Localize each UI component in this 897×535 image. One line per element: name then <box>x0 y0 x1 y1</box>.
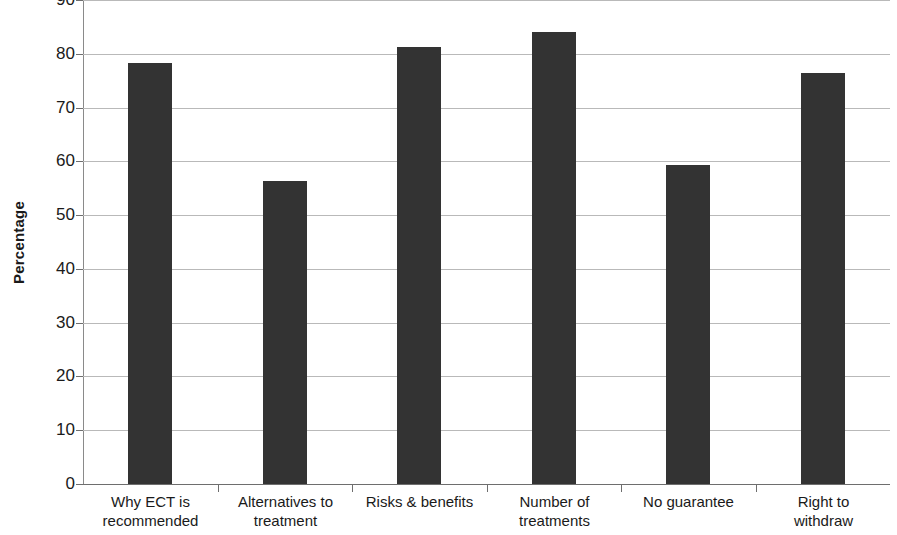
y-axis-tick-label: 70 <box>56 98 75 118</box>
x-axis-category-label: No guarantee <box>621 492 756 511</box>
x-axis-category-label-line: treatment <box>218 511 353 530</box>
x-axis-category-labels: Why ECT isrecommendedAlternatives totrea… <box>83 492 890 535</box>
bar <box>263 181 307 484</box>
y-axis-tick-label: 20 <box>56 366 75 386</box>
y-axis-tick-label: 10 <box>56 420 75 440</box>
y-axis-tick-label: 30 <box>56 313 75 333</box>
x-axis-category-label: Risks & benefits <box>352 492 487 511</box>
x-axis-tick <box>352 484 353 492</box>
y-axis-line <box>83 0 84 484</box>
bar <box>128 63 172 484</box>
y-axis-tick <box>76 430 83 431</box>
y-axis-title: Percentage <box>0 0 36 484</box>
y-axis-tick <box>76 269 83 270</box>
y-axis-tick <box>76 108 83 109</box>
x-axis-category-label: Why ECT isrecommended <box>83 492 218 530</box>
x-axis-category-label-line: Risks & benefits <box>352 492 487 511</box>
x-axis-tick <box>218 484 219 492</box>
gridline <box>83 54 890 55</box>
x-axis-category-label: Right towithdraw <box>756 492 891 530</box>
x-axis-category-label-line: Alternatives to <box>218 492 353 511</box>
x-axis-tick <box>487 484 488 492</box>
gridline <box>83 376 890 377</box>
x-axis-category-label: Number oftreatments <box>487 492 622 530</box>
y-axis-tick <box>76 54 83 55</box>
x-axis-category-label-line: withdraw <box>756 511 891 530</box>
bar <box>532 32 576 484</box>
x-axis-tick <box>621 484 622 492</box>
y-axis-tick-label: 0 <box>66 474 75 494</box>
y-axis-tick <box>76 0 83 1</box>
x-axis-category-label-line: recommended <box>83 511 218 530</box>
plot-area: 0102030405060708090 <box>83 0 890 484</box>
y-axis-tick-label: 90 <box>56 0 75 10</box>
gridline <box>83 323 890 324</box>
y-axis-title-label: Percentage <box>10 201 27 284</box>
x-axis-category-label-line: Right to <box>756 492 891 511</box>
x-axis-tick <box>756 484 757 492</box>
x-axis-category-label: Alternatives totreatment <box>218 492 353 530</box>
gridline <box>83 161 890 162</box>
y-axis-tick-label: 60 <box>56 151 75 171</box>
y-axis-tick <box>76 161 83 162</box>
y-axis-tick <box>76 376 83 377</box>
gridline <box>83 215 890 216</box>
gridline <box>83 108 890 109</box>
x-axis-category-label-line: No guarantee <box>621 492 756 511</box>
y-axis-tick-label: 40 <box>56 259 75 279</box>
y-axis-tick <box>76 484 83 485</box>
bar-chart: Percentage 0102030405060708090 Why ECT i… <box>0 0 897 535</box>
gridline <box>83 269 890 270</box>
gridline <box>83 430 890 431</box>
y-axis-tick <box>76 323 83 324</box>
bar <box>801 73 845 484</box>
x-axis-category-label-line: Number of <box>487 492 622 511</box>
bar <box>397 47 441 484</box>
y-axis-tick <box>76 215 83 216</box>
x-axis-category-label-line: Why ECT is <box>83 492 218 511</box>
gridline <box>83 0 890 1</box>
bar <box>666 165 710 484</box>
x-axis-category-label-line: treatments <box>487 511 622 530</box>
y-axis-tick-label: 50 <box>56 205 75 225</box>
y-axis-tick-label: 80 <box>56 44 75 64</box>
